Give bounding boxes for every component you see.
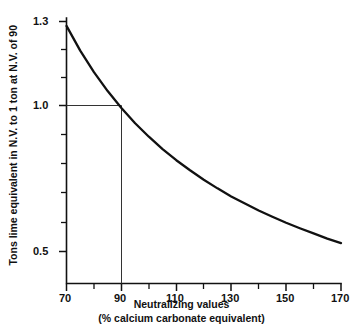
x-axis-title-line1: Neutralizing values bbox=[0, 297, 363, 311]
chart-figure: Tons lime equivalent in N.V. to 1 ton at… bbox=[0, 0, 363, 334]
data-curve bbox=[67, 26, 342, 243]
y-tick-label-0-5: 0.5 bbox=[33, 246, 48, 257]
plot-area bbox=[0, 0, 363, 334]
axis-spines bbox=[67, 18, 342, 284]
y-minor-ticks bbox=[61, 50, 67, 223]
reference-line-90 bbox=[67, 106, 122, 284]
x-axis-title: Neutralizing values (% calcium carbonate… bbox=[0, 297, 363, 325]
x-minor-ticks bbox=[94, 284, 314, 290]
y-tick-label-1-3: 1.3 bbox=[33, 16, 48, 27]
x-axis-title-line2: (% calcium carbonate equivalent) bbox=[0, 311, 363, 325]
y-tick-label-1-0: 1.0 bbox=[33, 100, 48, 111]
y-major-ticks bbox=[59, 22, 67, 252]
